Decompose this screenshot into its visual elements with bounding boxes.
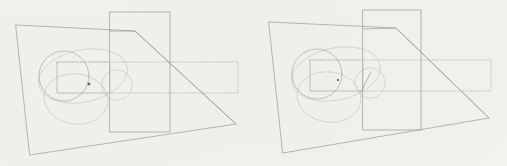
chamfer-diagonal (363, 28, 489, 118)
marker-point (88, 83, 90, 85)
small-dotted-circle (355, 68, 385, 98)
left-figure-svg (0, 0, 253, 166)
horizontal-dotted-rectangle (57, 62, 238, 93)
right-figure-svg (253, 0, 506, 166)
right-figure-panel (253, 0, 506, 166)
main-circle (39, 51, 89, 101)
chamfer-diagonal (110, 31, 236, 124)
outer-quadrilateral (16, 25, 236, 155)
outer-quadrilateral (269, 22, 489, 153)
inner-dotted-rectangle (310, 60, 363, 91)
horizontal-dotted-rectangle (310, 60, 491, 91)
figure-canvas (0, 0, 507, 166)
upper-dotted-ellipse (287, 39, 386, 109)
upper-dotted-ellipse (34, 41, 133, 111)
left-figure-panel (0, 0, 253, 166)
main-circle (292, 49, 342, 99)
tangent-line-segment (361, 72, 371, 92)
inner-dotted-rectangle (57, 62, 110, 93)
marker-point (337, 79, 339, 81)
small-dotted-circle (102, 70, 132, 100)
